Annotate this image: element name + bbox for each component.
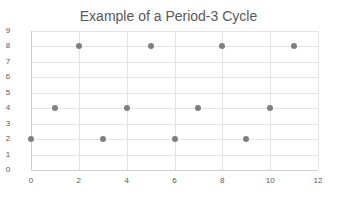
v-gridline [318, 31, 319, 170]
y-tick-label: 1 [0, 150, 16, 159]
x-tick-label: 12 [308, 176, 328, 185]
x-tick-label: 6 [165, 176, 185, 185]
data-point [124, 105, 130, 111]
data-point [243, 136, 249, 142]
y-tick-label: 5 [0, 88, 16, 97]
data-point [76, 43, 82, 49]
y-tick-label: 2 [0, 134, 16, 143]
y-tick-label: 6 [0, 72, 16, 81]
y-tick-label: 0 [0, 165, 16, 174]
v-gridline [79, 31, 80, 170]
data-point [219, 43, 225, 49]
v-gridline [127, 31, 128, 170]
data-point [291, 43, 297, 49]
data-point [52, 105, 58, 111]
x-tick-label: 8 [212, 176, 232, 185]
scatter-chart: Example of a Period-3 Cycle 0123456789 0… [0, 0, 337, 197]
chart-title: Example of a Period-3 Cycle [0, 8, 337, 24]
x-tick-label: 2 [69, 176, 89, 185]
y-axis-line [31, 31, 32, 170]
y-tick-label: 9 [0, 26, 16, 35]
y-tick-label: 7 [0, 57, 16, 66]
data-point [28, 136, 34, 142]
data-point [195, 105, 201, 111]
y-tick-label: 8 [0, 41, 16, 50]
data-point [100, 136, 106, 142]
y-tick-label: 4 [0, 103, 16, 112]
y-tick-label: 3 [0, 119, 16, 128]
data-point [267, 105, 273, 111]
v-gridline [270, 31, 271, 170]
x-axis-line [31, 170, 318, 171]
data-point [172, 136, 178, 142]
x-tick-label: 0 [21, 176, 41, 185]
v-gridline [175, 31, 176, 170]
x-tick-label: 4 [117, 176, 137, 185]
v-gridline [222, 31, 223, 170]
x-tick-label: 10 [260, 176, 280, 185]
data-point [148, 43, 154, 49]
